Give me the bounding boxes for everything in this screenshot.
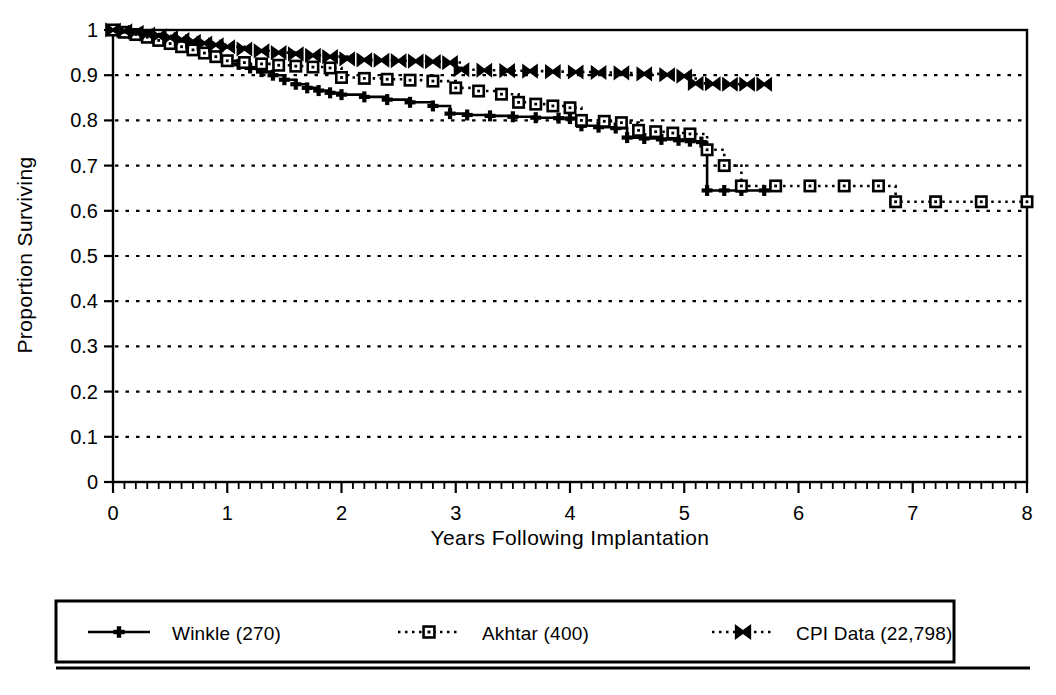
marker-bowtie <box>220 40 234 53</box>
y-tick-label: 0.8 <box>70 109 98 131</box>
y-tick-label: 0.2 <box>70 381 98 403</box>
marker-bowtie <box>757 78 771 91</box>
marker-bowtie <box>614 67 628 80</box>
marker-square-center <box>894 200 897 203</box>
marker-bowtie <box>740 78 754 91</box>
y-tick-label: 0.1 <box>70 426 98 448</box>
marker-square-center <box>534 103 537 106</box>
legend-items: Winkle (270)Akhtar (400)CPI Data (22,798… <box>88 623 953 644</box>
marker-square-center <box>340 76 343 79</box>
marker-square-center <box>620 121 623 124</box>
marker-square-center <box>723 164 726 167</box>
marker-square-center <box>203 52 206 55</box>
marker-square-center <box>428 631 431 634</box>
marker-square-center <box>386 78 389 81</box>
marker-bowtie <box>523 65 537 78</box>
marker-square-center <box>843 185 846 188</box>
marker-bowtie <box>306 49 320 62</box>
x-axis-title: Years Following Implantation <box>431 526 710 549</box>
y-tick-label: 0.5 <box>70 245 98 267</box>
marker-square-center <box>517 101 520 104</box>
marker-square-center <box>980 200 983 203</box>
marker-bowtie <box>374 54 388 67</box>
marker-bowtie <box>237 43 251 56</box>
marker-square-center <box>312 66 315 69</box>
x-tick-label: 7 <box>907 502 918 524</box>
marker-bowtie <box>289 48 303 61</box>
marker-square-center <box>1026 200 1029 203</box>
marker-square-center <box>180 45 183 48</box>
marker-square-center <box>169 42 172 45</box>
y-tick-label: 0 <box>87 471 98 493</box>
marker-square-center <box>706 148 709 151</box>
series-layer <box>106 24 1032 207</box>
x-tick-label: 4 <box>564 502 575 524</box>
marker-square-center <box>277 64 280 67</box>
y-tick-label: 1 <box>87 19 98 41</box>
marker-bowtie <box>426 55 440 68</box>
marker-square-center <box>260 63 263 66</box>
marker-bowtie <box>660 68 674 81</box>
marker-square-center <box>294 65 297 68</box>
marker-square-center <box>774 185 777 188</box>
y-axis-title: Proportion Surviving <box>13 156 36 353</box>
y-tick-label: 0.9 <box>70 64 98 86</box>
marker-bowtie <box>391 54 405 67</box>
x-tick-label: 0 <box>107 502 118 524</box>
marker-square-center <box>454 86 457 89</box>
marker-bowtie <box>706 77 720 90</box>
marker-bowtie <box>271 46 285 59</box>
marker-bowtie <box>500 64 514 77</box>
marker-bowtie <box>569 66 583 79</box>
marker-square-center <box>671 132 674 135</box>
y-axis-tick-labels: 00.10.20.30.40.50.60.70.80.91 <box>70 19 98 493</box>
marker-bowtie <box>723 78 737 91</box>
x-tick-label: 5 <box>679 502 690 524</box>
marker-square-center <box>329 67 332 70</box>
marker-bowtie <box>454 63 468 76</box>
y-tick-label: 0.3 <box>70 335 98 357</box>
marker-bowtie <box>323 50 337 63</box>
y-tick-label: 0.4 <box>70 290 98 312</box>
marker-square-center <box>226 59 229 62</box>
marker-square-center <box>580 119 583 122</box>
x-tick-label: 1 <box>222 502 233 524</box>
marker-square-center <box>934 200 937 203</box>
legend-label: Winkle (270) <box>172 623 281 644</box>
marker-square-center <box>363 77 366 80</box>
marker-bowtie <box>357 53 371 66</box>
marker-square-center <box>409 79 412 82</box>
marker-square-center <box>192 48 195 51</box>
marker-square-center <box>157 39 160 42</box>
marker-square-center <box>243 61 246 64</box>
x-axis-tick-labels: 012345678 <box>107 502 1032 524</box>
marker-square-center <box>740 185 743 188</box>
marker-square-center <box>432 80 435 83</box>
marker-square-center <box>603 120 606 123</box>
marker-bowtie <box>340 53 354 66</box>
x-tick-label: 2 <box>336 502 347 524</box>
legend-label: CPI Data (22,798) <box>796 623 953 644</box>
y-tick-label: 0.7 <box>70 155 98 177</box>
x-tick-label: 6 <box>793 502 804 524</box>
gridlines <box>115 75 1025 437</box>
x-tick-label: 8 <box>1021 502 1032 524</box>
marker-bowtie <box>637 67 651 80</box>
marker-square-center <box>477 90 480 93</box>
survival-chart: Proportion Surviving 00.10.20.30.40.50.6… <box>0 0 1056 695</box>
marker-bowtie <box>546 65 560 78</box>
marker-bowtie <box>254 44 268 57</box>
marker-square-center <box>569 106 572 109</box>
marker-square-center <box>809 185 812 188</box>
marker-bowtie <box>409 55 423 68</box>
marker-square-center <box>500 93 503 96</box>
marker-square-center <box>689 133 692 136</box>
marker-square-center <box>654 130 657 133</box>
x-tick-label: 3 <box>450 502 461 524</box>
chart-canvas: Proportion Surviving 00.10.20.30.40.50.6… <box>0 0 1056 695</box>
marker-square-center <box>877 185 880 188</box>
marker-square-center <box>637 129 640 132</box>
y-tick-label: 0.6 <box>70 200 98 222</box>
marker-square-center <box>551 105 554 108</box>
legend-label: Akhtar (400) <box>482 623 589 644</box>
